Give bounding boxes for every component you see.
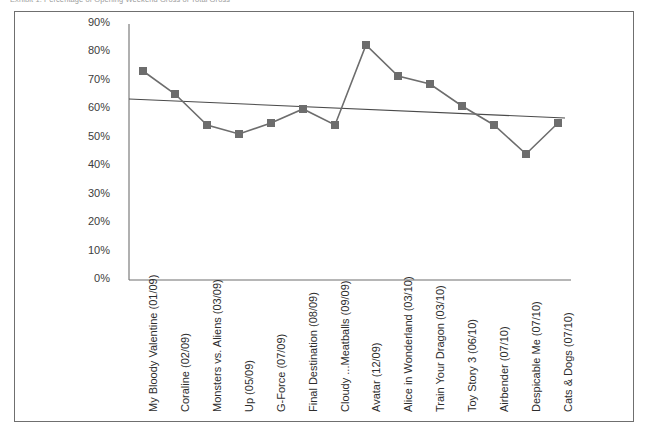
data-point-marker [267, 119, 275, 127]
data-point-marker [203, 121, 211, 129]
data-line [143, 45, 558, 154]
line-chart-plot [15, 12, 633, 421]
data-point-marker [235, 130, 243, 138]
data-point-marker [331, 121, 339, 129]
data-point-marker [394, 72, 402, 80]
trendline [129, 99, 565, 118]
figure-caption: Exhibit 1. Percentage of Opening Weekend… [10, 0, 230, 4]
data-point-marker [522, 150, 530, 158]
data-point-marker [139, 67, 147, 75]
data-point-marker [362, 41, 370, 49]
chart-frame [14, 11, 634, 422]
data-point-marker [426, 80, 434, 88]
data-point-marker [299, 105, 307, 113]
data-point-marker [490, 121, 498, 129]
data-point-marker [458, 102, 466, 110]
data-markers [139, 41, 562, 158]
data-point-marker [554, 119, 562, 127]
data-point-marker [171, 90, 179, 98]
